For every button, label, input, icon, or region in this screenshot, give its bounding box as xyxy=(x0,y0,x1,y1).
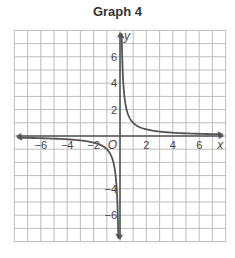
curve-branch-positive xyxy=(122,34,222,134)
x-tick-label: −4 xyxy=(61,139,74,151)
y-tick-label: 4 xyxy=(111,77,117,89)
x-tick-label: 4 xyxy=(170,139,176,151)
origin-label: O xyxy=(108,138,117,152)
y-tick-label: 2 xyxy=(111,104,117,116)
tick-labels: −6−4−2246642−4−6Oxy xyxy=(35,29,225,222)
y-tick-label: −4 xyxy=(104,183,117,195)
y-tick-label: −6 xyxy=(104,209,117,221)
axes xyxy=(16,32,225,241)
y-axis-label: y xyxy=(123,29,131,43)
curve-branch-negative xyxy=(19,138,119,238)
y-tick-label: 6 xyxy=(111,51,117,63)
graph-plot: −6−4−2246642−4−6Oxy xyxy=(0,0,235,258)
x-tick-label: 6 xyxy=(196,139,202,151)
x-axis-label: x xyxy=(216,138,224,152)
x-tick-label: −6 xyxy=(35,139,48,151)
x-tick-label: 2 xyxy=(143,139,149,151)
